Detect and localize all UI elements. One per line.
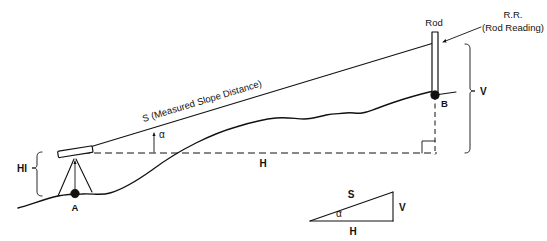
surveying-diagram-figure: S (Measured Slope Distance) H α A	[0, 0, 547, 241]
point-a-label: A	[72, 202, 79, 213]
v-label: V	[480, 86, 487, 97]
slope-distance-line	[70, 42, 437, 153]
inset-angle-alpha-label: α	[336, 208, 342, 219]
inset-base-label: H	[349, 226, 356, 237]
instrument-station-group: A	[58, 146, 94, 213]
hi-label: HI	[17, 163, 27, 174]
v-bracket-group: V	[465, 44, 487, 153]
diagram-canvas: S (Measured Slope Distance) H α A	[0, 0, 547, 241]
rod-label: Rod	[425, 17, 442, 28]
horizontal-distance-group: H	[72, 153, 437, 169]
level-rod	[432, 32, 438, 98]
slope-angle-group: α	[154, 129, 165, 152]
hi-bracket-group: HI	[17, 152, 42, 196]
point-b-label: B	[441, 98, 448, 109]
angle-alpha-label: α	[159, 129, 165, 140]
rod-group: B Rod	[425, 17, 456, 109]
inset-vertical-label: V	[399, 202, 406, 213]
point-a-marker	[71, 189, 79, 197]
vertical-drop-group	[422, 95, 435, 155]
slope-distance-group: S (Measured Slope Distance)	[70, 42, 437, 153]
rod-reading-leader-line	[443, 27, 481, 42]
tripod-leg-right	[76, 159, 92, 192]
hi-bracket	[32, 152, 42, 196]
instrument-telescope-body	[58, 146, 94, 158]
rod-reading-abbr-label: R.R.	[504, 9, 523, 20]
rod-reading-full-label: (Rod Reading)	[482, 22, 544, 33]
rod-reading-callout-group: R.R. (Rod Reading)	[443, 9, 544, 42]
inset-hypotenuse-label: S	[348, 189, 355, 200]
inset-triangle-group: S V H α	[310, 189, 406, 237]
horizontal-distance-label: H	[259, 158, 266, 169]
right-angle-marker	[422, 141, 435, 153]
v-bracket	[465, 44, 475, 153]
